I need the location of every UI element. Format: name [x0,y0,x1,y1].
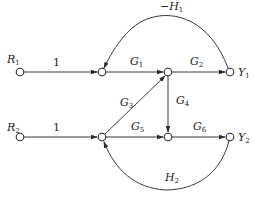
label-g1: G1 [130,55,143,69]
label-h2: H2 [164,171,179,185]
node-n1 [98,68,106,76]
node-n2 [164,68,172,76]
label-gain-1-bottom: 1 [53,121,60,134]
node-y2 [226,133,234,141]
label-g3: G3 [120,96,133,110]
label-gain-1-top: 1 [53,56,60,69]
label-g2: G2 [190,55,203,69]
label-minus-h1: −H1 [160,0,183,14]
signal-flow-graph: R1 Y1 R2 Y2 1 G1 G2 −H1 G3 G4 1 G5 G6 H2 [0,0,254,198]
label-g6: G6 [193,120,207,134]
edge-minus-h1 [104,16,228,68]
node-r1 [16,68,24,76]
node-y1 [226,68,234,76]
label-g5: G5 [131,120,144,134]
label-y2: Y2 [238,131,250,145]
label-r1: R1 [6,53,20,67]
node-n3 [98,133,106,141]
label-g4: G4 [176,94,190,108]
node-n4 [164,133,172,141]
label-y1: Y1 [238,66,250,80]
label-r2: R2 [6,121,20,135]
